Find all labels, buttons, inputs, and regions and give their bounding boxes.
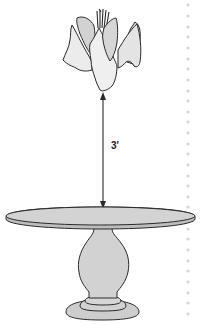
dimension-arrow bbox=[100, 92, 106, 209]
diagram-canvas: 3' bbox=[0, 0, 202, 325]
centerpiece-illustration bbox=[63, 9, 141, 91]
tabletop bbox=[6, 207, 195, 225]
arrowhead-up-icon bbox=[100, 92, 106, 100]
pedestal-table-illustration bbox=[6, 207, 195, 320]
height-measurement-label: 3' bbox=[111, 140, 119, 152]
table-pedestal bbox=[78, 228, 128, 298]
dotted-guide-line bbox=[186, 3, 189, 315]
